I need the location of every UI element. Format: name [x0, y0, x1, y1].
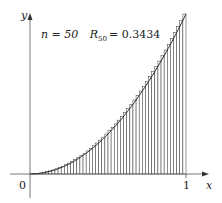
rectangle: [96, 143, 99, 174]
rectangle: [149, 77, 152, 174]
rectangle: [99, 140, 102, 174]
rectangle: [127, 108, 130, 174]
rectangle: [183, 14, 186, 174]
rectangle: [142, 86, 145, 174]
riemann-sum-chart: y x 0 1 n = 50 R50= 0.3434: [0, 0, 222, 203]
rectangle: [83, 153, 86, 174]
annotation: n = 50 R50= 0.3434: [41, 28, 160, 43]
rectangle: [170, 39, 173, 174]
rectangle: [117, 120, 120, 174]
rectangle: [86, 151, 89, 174]
rectangle: [158, 61, 161, 174]
rectangle: [167, 44, 170, 174]
rectangle: [139, 91, 142, 174]
rectangle: [102, 137, 105, 174]
rectangle: [164, 50, 167, 174]
rectangle: [80, 156, 83, 174]
rectangle: [124, 112, 127, 174]
rectangle: [108, 131, 111, 174]
rectangle: [89, 148, 92, 174]
origin-label: 0: [19, 179, 26, 192]
x-axis-label: x: [206, 179, 213, 192]
rectangle: [92, 146, 95, 174]
rectangle: [152, 72, 155, 174]
rectangle: [174, 33, 177, 174]
rectangle: [136, 96, 139, 174]
x-tick-label-1: 1: [183, 179, 190, 192]
rectangle: [77, 158, 80, 174]
y-axis-arrow-icon: [28, 13, 33, 20]
rectangle: [105, 134, 108, 174]
rectangle: [114, 124, 117, 174]
rectangle: [130, 104, 133, 174]
rectangle: [145, 82, 148, 174]
rectangle: [161, 56, 164, 174]
rectangle: [180, 20, 183, 174]
rectangle: [155, 66, 158, 174]
rectangle: [177, 27, 180, 174]
rectangle: [120, 116, 123, 174]
rectangle: [133, 100, 136, 174]
rectangle: [111, 127, 114, 174]
y-axis-label: y: [20, 9, 28, 22]
x-axis-arrow-icon: [202, 172, 209, 177]
